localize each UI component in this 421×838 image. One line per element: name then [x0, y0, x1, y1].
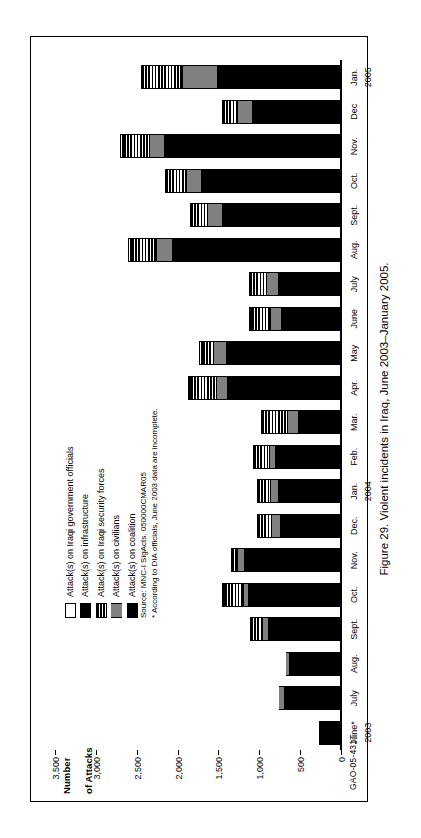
x-category-label: Nov.: [349, 551, 359, 569]
figure-caption: Figure 29. Violent incidents in Iraq, Ju…: [378, 36, 390, 802]
bar-segment-civilians: [271, 479, 278, 503]
bar-segment-security: [231, 548, 238, 572]
y-tick-mark: [341, 750, 342, 755]
bar-segment-civilians: [214, 341, 225, 365]
bar-segment-coalition: [279, 514, 339, 538]
bar-segment-security: [141, 65, 183, 89]
bar-segment-coalition: [227, 376, 340, 400]
x-category-label: July: [349, 276, 359, 292]
x-category-label: Jan.: [349, 69, 359, 86]
bar-group[interactable]: [221, 583, 339, 607]
plot-area: 05001,0001,5002,0002,5003,0003,500 June*…: [52, 60, 342, 750]
y-tick-mark: [218, 750, 219, 755]
legend-label: Attack(s) on Iraqi government officials: [64, 447, 75, 597]
x-category-label: Oct.: [349, 172, 359, 189]
source-note: * According to DIA officials, June 2003 …: [149, 408, 160, 618]
bar-group[interactable]: [231, 548, 340, 572]
legend-item-security[interactable]: Attack(s) on Iraqi security forces: [95, 447, 107, 618]
bar-group[interactable]: [253, 445, 340, 469]
bar-group[interactable]: [248, 272, 339, 296]
bar-segment-coalition: [277, 479, 339, 503]
x-category-label: Dec.: [349, 516, 359, 535]
bar-group[interactable]: [141, 65, 340, 89]
x-year-label: 2003: [363, 723, 373, 743]
bar-segment-coalition: [318, 721, 339, 745]
bar-segment-coalition: [243, 548, 339, 572]
bar-segment-civilians: [278, 686, 283, 710]
y-tick-mark: [259, 750, 260, 755]
x-year-label: 2004: [363, 481, 373, 501]
legend-label: Attack(s) on infrastructure: [80, 494, 91, 597]
y-tick-label: 3,500: [51, 751, 61, 780]
bar-segment-security: [221, 100, 237, 124]
bar-segment-security: [253, 445, 269, 469]
bar-group[interactable]: [250, 617, 340, 641]
legend-item-coalition[interactable]: Attack(s) on coalition: [126, 447, 138, 618]
bar-segment-security: [223, 583, 243, 607]
bar-group[interactable]: [189, 203, 339, 227]
bar-segment-civilians: [270, 307, 281, 331]
bar-group[interactable]: [199, 341, 340, 365]
source-notes: Source: MNC-I SigActs. 050000CMAR05* Acc…: [138, 408, 160, 618]
bar-segment-civilians: [237, 548, 243, 572]
x-category-label: Feb.: [349, 448, 359, 466]
bar-segment-civilians: [243, 583, 248, 607]
legend-label: Attack(s) on civilians: [111, 515, 122, 597]
bar-segment-civilians: [183, 65, 217, 89]
bar-segment-security: [250, 307, 270, 331]
y-tick-mark: [95, 750, 96, 755]
y-tick-label: 1,000: [255, 751, 265, 780]
bar-segment-civilians: [286, 652, 289, 676]
bar-group[interactable]: [165, 169, 340, 193]
bar-segment-coalition: [222, 203, 340, 227]
bar-segment-security: [260, 410, 287, 434]
bar-group[interactable]: [221, 100, 339, 124]
bar-segment-coalition: [201, 169, 340, 193]
bar-segment-coalition: [163, 134, 340, 158]
bar-group[interactable]: [120, 134, 340, 158]
bar-segment-civilians: [149, 134, 163, 158]
bar-segment-civilians: [207, 203, 222, 227]
bar-segment-civilians: [287, 410, 297, 434]
legend-item-civilians[interactable]: Attack(s) on civilians: [110, 447, 122, 618]
legend-swatch-security: [95, 603, 106, 618]
bar-segment-coalition: [297, 410, 339, 434]
bar-segment-security: [201, 341, 213, 365]
bar-segment-security: [123, 134, 149, 158]
bar-segment-civilians: [156, 238, 171, 262]
bar-group[interactable]: [260, 410, 339, 434]
bar-group[interactable]: [278, 686, 339, 710]
x-category-label: Jan.: [349, 483, 359, 500]
bar-group[interactable]: [256, 479, 339, 503]
legend-item-gov[interactable]: Attack(s) on Iraqi government officials: [64, 447, 76, 618]
bar-group[interactable]: [318, 721, 339, 745]
bar-segment-security: [130, 238, 156, 262]
legend-swatch-civilians: [111, 603, 122, 618]
bar-segment-coalition: [283, 686, 339, 710]
bar-segment-civilians: [272, 514, 279, 538]
x-category-label: Sept.: [349, 205, 359, 226]
x-category-label: Aug.: [349, 240, 359, 259]
bar-segment-gov: [127, 238, 130, 262]
legend-swatch-infra: [80, 603, 91, 618]
bar-group[interactable]: [256, 514, 339, 538]
bar-segment-coalition: [225, 341, 339, 365]
bar-segment-security: [248, 272, 267, 296]
bar-segment-coalition: [275, 445, 340, 469]
bar-segment-civilians: [187, 169, 201, 193]
x-category-label: Dec: [349, 104, 359, 120]
y-tick-label: 3,000: [91, 751, 101, 780]
rotated-figure-wrapper: Number of Attacks 05001,0001,5002,0002,5…: [0, 0, 421, 838]
y-tick-mark: [177, 750, 178, 755]
bar-group[interactable]: [248, 307, 339, 331]
bar-segment-security: [256, 479, 271, 503]
bar-segment-civilians: [269, 445, 275, 469]
bar-segment-coalition: [289, 652, 340, 676]
bar-group[interactable]: [286, 652, 340, 676]
figure-page: Number of Attacks 05001,0001,5002,0002,5…: [0, 0, 421, 838]
y-tick-mark: [300, 750, 301, 755]
x-category-label: Nov.: [349, 137, 359, 155]
legend-item-infra[interactable]: Attack(s) on infrastructure: [79, 447, 91, 618]
bar-group[interactable]: [127, 238, 339, 262]
bar-group[interactable]: [188, 376, 340, 400]
